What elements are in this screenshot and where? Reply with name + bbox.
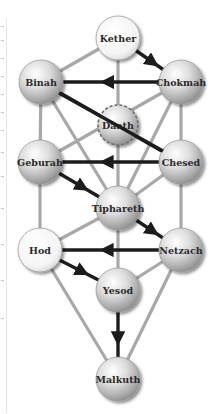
sphere-malkuth: Malkuth <box>95 357 140 401</box>
arrow-icon <box>77 269 82 272</box>
sphere-geburah: Geburah <box>17 140 63 184</box>
sphere-binah: Binah <box>19 60 63 104</box>
sphere-chesed: Chesed <box>159 140 203 184</box>
arrow-icon <box>148 228 153 231</box>
sphere-label: Chesed <box>162 157 201 168</box>
sphere-label: Malkuth <box>95 374 140 385</box>
sphere-label: Tiphareth <box>92 203 145 214</box>
sphere-label: Chokmah <box>156 77 207 88</box>
sphere-label: Netzach <box>159 245 202 256</box>
sphere-chokmah: Chokmah <box>156 60 207 104</box>
arrow-icon <box>148 59 153 62</box>
sephiroth-spheres: KetherChokmahBinahDaathChesedGeburahTiph… <box>17 16 206 401</box>
sphere-label: Binah <box>25 77 57 88</box>
sphere-label: Geburah <box>17 157 63 168</box>
tree-of-life-diagram: KetherChokmahBinahDaathChesedGeburahTiph… <box>0 0 216 414</box>
sphere-kether: Kether <box>96 16 140 60</box>
arrow-icon <box>77 184 82 187</box>
sphere-netzach: Netzach <box>159 228 203 272</box>
sphere-label: Kether <box>100 33 137 44</box>
sphere-label: Hod <box>29 245 51 256</box>
sphere-yesod: Yesod <box>96 268 140 312</box>
sphere-label: Yesod <box>102 285 134 296</box>
sphere-hod: Hod <box>18 228 62 272</box>
